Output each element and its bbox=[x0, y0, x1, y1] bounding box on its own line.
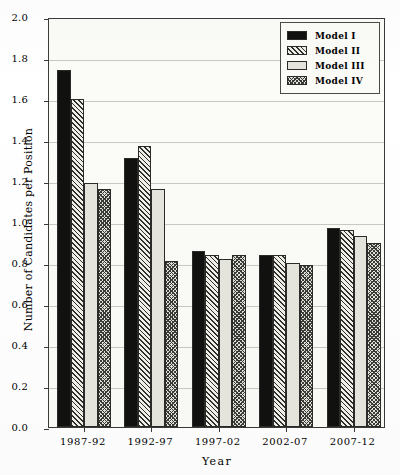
bar bbox=[71, 99, 85, 427]
legend-label: Model IV bbox=[315, 76, 363, 86]
y-tick-label: 1.0 bbox=[0, 217, 28, 228]
bar bbox=[192, 251, 206, 427]
y-tick-label: 0.0 bbox=[0, 422, 28, 433]
legend-item: Model III bbox=[287, 58, 373, 73]
bar bbox=[300, 265, 314, 427]
legend-label: Model III bbox=[315, 61, 365, 71]
bar bbox=[124, 158, 138, 427]
y-tick-mark bbox=[44, 19, 49, 20]
y-tick-label: 0.6 bbox=[0, 299, 28, 310]
gridline bbox=[49, 101, 384, 102]
gridline bbox=[49, 142, 384, 143]
bar bbox=[232, 255, 246, 427]
y-tick-label: 1.8 bbox=[0, 53, 28, 64]
legend-swatch bbox=[287, 76, 307, 85]
y-tick-label: 0.4 bbox=[0, 340, 28, 351]
legend-label: Model I bbox=[315, 31, 356, 41]
y-tick-label: 2.0 bbox=[0, 12, 28, 23]
x-axis-label: Year bbox=[48, 455, 386, 468]
bar bbox=[354, 236, 368, 427]
bar bbox=[259, 255, 273, 427]
bar bbox=[138, 146, 152, 427]
x-tick-mark bbox=[219, 427, 220, 432]
legend-item: Model IV bbox=[287, 73, 373, 88]
legend-swatch bbox=[287, 31, 307, 40]
bar bbox=[273, 255, 287, 427]
y-tick-mark bbox=[44, 347, 49, 348]
y-tick-label: 1.4 bbox=[0, 135, 28, 146]
legend-item: Model I bbox=[287, 28, 373, 43]
gridline bbox=[49, 183, 384, 184]
y-tick-mark bbox=[44, 388, 49, 389]
y-tick-mark bbox=[44, 429, 49, 430]
bar bbox=[84, 183, 98, 427]
x-tick-mark bbox=[354, 427, 355, 432]
y-tick-label: 1.2 bbox=[0, 176, 28, 187]
bar bbox=[165, 261, 179, 427]
x-tick-mark bbox=[286, 427, 287, 432]
bar bbox=[367, 243, 381, 428]
x-tick-mark bbox=[151, 427, 152, 432]
bar bbox=[327, 228, 341, 427]
y-tick-label: 1.6 bbox=[0, 94, 28, 105]
bar bbox=[205, 255, 219, 427]
legend-swatch bbox=[287, 61, 307, 70]
bar-chart: Number of Candidates per Position 2.01.8… bbox=[0, 0, 400, 475]
y-tick-label: 0.8 bbox=[0, 258, 28, 269]
y-tick-mark bbox=[44, 183, 49, 184]
bar bbox=[98, 189, 112, 427]
bar bbox=[219, 259, 233, 427]
bar bbox=[151, 189, 165, 427]
y-tick-mark bbox=[44, 265, 49, 266]
y-tick-mark bbox=[44, 101, 49, 102]
y-tick-label: 0.2 bbox=[0, 381, 28, 392]
x-tick-label: 2007-12 bbox=[308, 436, 398, 447]
chart-legend: Model IModel IIModel IIIModel IV bbox=[280, 22, 380, 94]
y-tick-mark bbox=[44, 306, 49, 307]
bar bbox=[57, 70, 71, 427]
legend-label: Model II bbox=[315, 46, 360, 56]
bar bbox=[340, 230, 354, 427]
legend-swatch bbox=[287, 46, 307, 55]
legend-item: Model II bbox=[287, 43, 373, 58]
y-tick-mark bbox=[44, 142, 49, 143]
y-tick-mark bbox=[44, 60, 49, 61]
x-tick-mark bbox=[84, 427, 85, 432]
y-tick-mark bbox=[44, 224, 49, 225]
bar bbox=[286, 263, 300, 427]
